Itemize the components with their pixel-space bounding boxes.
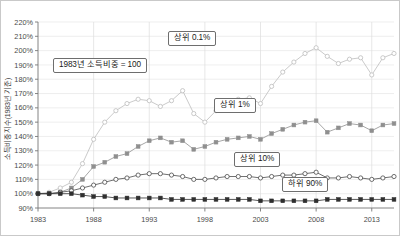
- svg-text:150%: 150%: [14, 118, 33, 127]
- svg-text:2008: 2008: [308, 215, 324, 224]
- svg-text:1998: 1998: [197, 215, 213, 224]
- svg-text:200%: 200%: [14, 46, 33, 55]
- svg-text:170%: 170%: [14, 89, 33, 98]
- svg-text:140%: 140%: [14, 132, 33, 141]
- svg-text:100%: 100%: [14, 189, 33, 198]
- chart-figure: 소득비중지수(1983년 기준) 90%100%110%120%130%140%…: [0, 0, 400, 236]
- annotation-top-1: 상위 1%: [214, 98, 256, 113]
- svg-text:1993: 1993: [141, 215, 157, 224]
- svg-text:110%: 110%: [15, 175, 34, 184]
- annotation-bottom-90: 하위 90%: [282, 177, 328, 192]
- svg-text:2013: 2013: [364, 215, 380, 224]
- annotation-top-10: 상위 10%: [234, 152, 280, 167]
- annotation-base-index: 1983년 소득비중 = 100: [53, 58, 147, 73]
- svg-text:1983: 1983: [30, 215, 46, 224]
- svg-text:180%: 180%: [14, 75, 33, 84]
- svg-text:210%: 210%: [14, 32, 33, 41]
- svg-text:90%: 90%: [18, 204, 33, 213]
- svg-text:2003: 2003: [252, 215, 268, 224]
- svg-text:120%: 120%: [14, 161, 33, 170]
- svg-text:190%: 190%: [14, 61, 33, 70]
- annotation-top-0-1: 상위 0.1%: [168, 31, 216, 46]
- svg-text:1988: 1988: [86, 215, 102, 224]
- svg-text:220%: 220%: [14, 18, 33, 27]
- svg-text:130%: 130%: [14, 146, 33, 155]
- svg-text:160%: 160%: [14, 103, 33, 112]
